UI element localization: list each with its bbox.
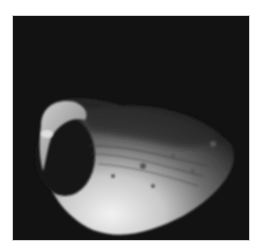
moon-image xyxy=(13,16,250,241)
photo-frame xyxy=(12,15,250,241)
